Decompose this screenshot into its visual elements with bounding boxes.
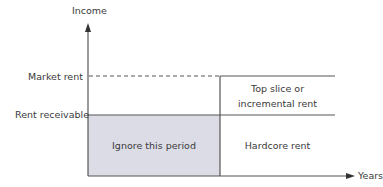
y-axis-label: Income bbox=[72, 6, 107, 16]
rent-receivable-label: Rent receivable bbox=[15, 110, 89, 120]
hardcore-rent-label: Hardcore rent bbox=[220, 141, 335, 151]
x-axis-label: Years bbox=[358, 171, 383, 181]
x-axis-arrow-icon bbox=[346, 173, 355, 179]
top-slice-label-line1: Top slice or bbox=[220, 84, 335, 94]
market-rent-label: Market rent bbox=[28, 72, 83, 82]
ignore-period-label: Ignore this period bbox=[88, 141, 220, 151]
top-slice-label-line2: incremental rent bbox=[220, 99, 335, 109]
y-axis-arrow-icon bbox=[85, 23, 91, 32]
